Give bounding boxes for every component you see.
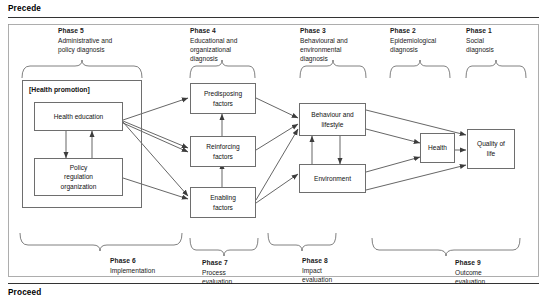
phase-9-desc-line-1: Outcome bbox=[455, 268, 485, 277]
phase-2-desc-line-2: diagnosis bbox=[390, 45, 436, 54]
phase-9-number: Phase 9 bbox=[455, 258, 485, 268]
phase-8-desc-line-1: Impact bbox=[302, 266, 332, 275]
phase-label-9: Phase 9 Outcome evaluation bbox=[455, 258, 485, 286]
brace-phase-2-top bbox=[390, 60, 450, 78]
phase-1-desc-line-2: diagnosis bbox=[466, 45, 494, 54]
node-policy-line-1: Policy bbox=[70, 163, 88, 173]
node-health-education: Health education bbox=[34, 102, 123, 131]
phase-label-8: Phase 8 Impact evaluation bbox=[302, 256, 332, 284]
node-predisposing-factors: Predisposing factors bbox=[190, 83, 256, 114]
arrow-reinforcing-to-behaviour bbox=[256, 124, 298, 150]
node-behaviour-and-lifestyle: Behaviour and lifestyle bbox=[299, 103, 366, 136]
node-predisposing-line-1: Predisposing bbox=[204, 89, 242, 99]
phase-3-desc-line-2: environmental bbox=[300, 45, 348, 54]
node-reinforcing-factors: Reinforcing factors bbox=[190, 136, 256, 167]
node-quality-of-life-line-1: Quality of bbox=[477, 139, 505, 149]
phase-label-5: Phase 5 Administrative and policy diagno… bbox=[58, 26, 112, 54]
phase-2-desc-line-1: Epidemiological bbox=[390, 36, 436, 45]
precede-label: Precede bbox=[8, 4, 41, 13]
proceed-label: Proceed bbox=[8, 288, 41, 297]
brace-phase-6-bottom bbox=[20, 233, 182, 251]
top-braces bbox=[22, 60, 526, 78]
phase-6-desc-line-1: Implementation bbox=[110, 266, 155, 275]
brace-phase-7-bottom bbox=[190, 238, 258, 256]
node-behaviour-line-1: Behaviour and bbox=[311, 110, 354, 120]
phase-3-desc-line-3: diagnosis bbox=[300, 54, 348, 63]
arrow-behaviour-to-quality-of-life bbox=[366, 110, 466, 135]
phase-7-number: Phase 7 bbox=[202, 258, 232, 268]
node-enabling-line-1: Enabling bbox=[210, 193, 236, 203]
brace-phase-1-top bbox=[466, 60, 526, 78]
phase-9-desc-line-2: evaluation bbox=[455, 277, 485, 286]
phase-label-3: Phase 3 Behavioural and environmental di… bbox=[300, 26, 348, 64]
node-policy-line-2: regulation bbox=[64, 172, 93, 182]
phase-4-number: Phase 4 bbox=[190, 26, 237, 36]
phase-label-2: Phase 2 Epidemiological diagnosis bbox=[390, 26, 436, 54]
arrow-environment-to-quality-of-life bbox=[366, 165, 466, 190]
node-reinforcing-line-1: Reinforcing bbox=[206, 142, 239, 152]
arrow-behaviour-to-health bbox=[366, 129, 420, 143]
precede-proceed-diagram: Precede Proceed Phase 5 Administrative a… bbox=[0, 0, 547, 301]
node-enabling-factors: Enabling factors bbox=[190, 187, 256, 218]
phase-4-desc-line-2: organizational bbox=[190, 45, 237, 54]
phase-5-desc-line-1: Administrative and bbox=[58, 36, 112, 45]
phase-7-desc-line-2: evaluation bbox=[202, 277, 232, 286]
node-reinforcing-line-2: factors bbox=[213, 152, 233, 162]
node-policy-regulation-organization: Policy regulation organization bbox=[34, 158, 123, 196]
phase-8-number: Phase 8 bbox=[302, 256, 332, 266]
phase-8-desc-line-2: evaluation bbox=[302, 275, 332, 284]
phase-label-4: Phase 4 Educational and organizational d… bbox=[190, 26, 237, 64]
node-health-education-label: Health education bbox=[54, 112, 104, 122]
arrow-environment-to-health bbox=[366, 157, 420, 172]
brace-phase-5-top bbox=[22, 60, 142, 78]
node-environment-label: Environment bbox=[314, 174, 351, 184]
phase-2-number: Phase 2 bbox=[390, 26, 436, 36]
node-health: Health bbox=[420, 133, 455, 163]
node-quality-of-life-line-2: life bbox=[487, 149, 495, 159]
phase-3-number: Phase 3 bbox=[300, 26, 348, 36]
node-environment: Environment bbox=[299, 164, 366, 193]
node-quality-of-life: Quality of life bbox=[467, 129, 515, 169]
phase-label-1: Phase 1 Social diagnosis bbox=[466, 26, 494, 54]
phase-1-desc-line-1: Social bbox=[466, 36, 494, 45]
brace-phase-8-bottom bbox=[268, 233, 336, 251]
phase-7-desc-line-1: Process bbox=[202, 268, 232, 277]
node-health-promotion-label: [Health promotion] bbox=[29, 85, 90, 95]
phase-4-desc-line-3: diagnosis bbox=[190, 54, 237, 63]
phase-label-6: Phase 6 Implementation bbox=[110, 256, 155, 275]
phase-label-7: Phase 7 Process evaluation bbox=[202, 258, 232, 286]
phase-5-number: Phase 5 bbox=[58, 26, 112, 36]
node-predisposing-line-2: factors bbox=[213, 99, 233, 109]
bottom-braces bbox=[20, 233, 520, 256]
phase-1-number: Phase 1 bbox=[466, 26, 494, 36]
node-health-label: Health bbox=[428, 143, 447, 153]
node-policy-line-3: organization bbox=[61, 182, 97, 192]
phase-5-desc-line-2: policy diagnosis bbox=[58, 45, 112, 54]
phase-6-number: Phase 6 bbox=[110, 256, 155, 266]
arrow-enabling-to-environment bbox=[256, 174, 298, 203]
brace-phase-9-bottom bbox=[372, 238, 520, 256]
arrow-enabling-to-behaviour bbox=[256, 129, 298, 200]
arrow-predisposing-to-behaviour bbox=[256, 98, 298, 118]
node-behaviour-line-2: lifestyle bbox=[322, 120, 344, 130]
node-enabling-line-2: factors bbox=[213, 203, 233, 213]
phase-3-desc-line-1: Behavioural and bbox=[300, 36, 348, 45]
phase-4-desc-line-1: Educational and bbox=[190, 36, 237, 45]
